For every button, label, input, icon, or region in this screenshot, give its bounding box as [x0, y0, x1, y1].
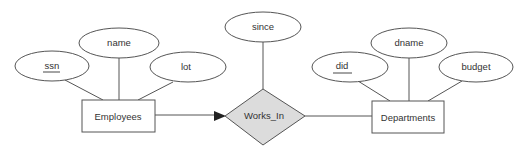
attribute-did-label: did [336, 60, 349, 71]
edge-ssn-employees [65, 80, 103, 100]
edge-did-departments [358, 81, 390, 101]
attribute-name[interactable]: name [79, 28, 159, 58]
attribute-name-label: name [107, 37, 131, 48]
attribute-budget-label: budget [461, 61, 490, 72]
attribute-ssn-label: ssn [45, 60, 60, 71]
edge-lot-employees [138, 82, 173, 100]
attribute-dname-label: dname [394, 37, 423, 48]
attribute-since-label: since [252, 21, 274, 32]
attribute-dname[interactable]: dname [371, 28, 447, 58]
edge-budget-departments [428, 81, 462, 101]
attribute-did[interactable]: did [312, 52, 388, 82]
attribute-lot[interactable]: lot [150, 52, 226, 82]
er-diagram-canvas: ssn name lot Employees since Works_In di… [0, 0, 528, 148]
entity-employees[interactable]: Employees [82, 100, 155, 132]
entity-departments[interactable]: Departments [372, 101, 444, 133]
entity-departments-label: Departments [381, 112, 436, 123]
attribute-since[interactable]: since [225, 12, 301, 42]
attribute-ssn[interactable]: ssn [15, 51, 89, 81]
entity-employees-label: Employees [95, 111, 142, 122]
attribute-budget[interactable]: budget [439, 52, 513, 82]
attribute-did-ellipse [312, 52, 388, 82]
relationship-works-in-label: Works_In [244, 110, 284, 121]
attribute-lot-label: lot [181, 61, 191, 72]
relationship-works-in[interactable]: Works_In [225, 89, 305, 145]
